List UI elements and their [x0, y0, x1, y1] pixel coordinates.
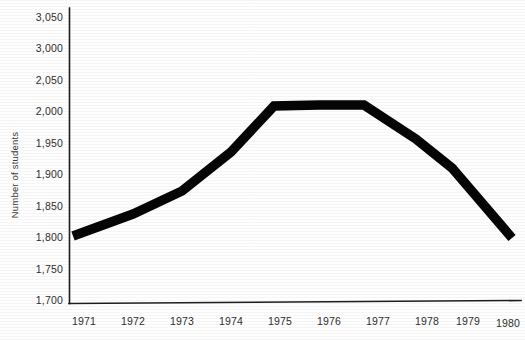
y-tick-label: 1,850 [36, 200, 63, 212]
y-tick-label: 1,750 [36, 263, 63, 275]
chart-figure: Number of students 3,050 3,000 2,050 2,0… [0, 0, 525, 340]
y-tick-label: 1,800 [36, 231, 63, 243]
x-tick-label: 1979 [456, 315, 480, 327]
x-tick-label: 1980 [496, 317, 520, 329]
x-tick-label: 1977 [366, 315, 390, 327]
y-tick-label: 2,050 [36, 74, 63, 86]
x-tick-label: 1975 [268, 315, 292, 327]
y-tick-label: 3,000 [36, 42, 63, 54]
data-series-line [73, 105, 512, 238]
line-chart: Number of students 3,050 3,000 2,050 2,0… [0, 0, 525, 340]
x-tick-label: 1978 [415, 315, 439, 327]
x-tick-label: 1974 [219, 315, 243, 327]
y-tick-label: 1,700 [36, 294, 63, 306]
y-tick-label: 2,000 [36, 105, 63, 117]
y-tick-label: 3,050 [36, 11, 63, 23]
x-tick-label: 1971 [72, 315, 96, 327]
x-tick-label: 1972 [121, 315, 145, 327]
x-axis-line [69, 301, 521, 304]
x-tick-label: 1973 [170, 315, 194, 327]
y-tick-label: 1,900 [36, 168, 63, 180]
x-tick-label: 1976 [317, 315, 341, 327]
y-axis-title: Number of students [9, 132, 20, 219]
y-tick-label: 1,950 [36, 137, 63, 149]
